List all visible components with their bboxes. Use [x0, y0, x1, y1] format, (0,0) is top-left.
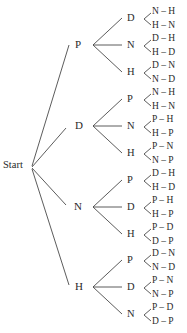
level2-node: H — [127, 148, 135, 159]
level2-node: H — [127, 67, 135, 78]
leaf-outcome: H – P — [152, 210, 174, 220]
level2-node: P — [127, 255, 133, 266]
leaf-outcome: N – H — [152, 88, 175, 98]
leaf-outcome: D – H — [152, 34, 175, 44]
leaf-outcome: P – D — [152, 223, 173, 233]
leaf-outcome: H – N — [152, 102, 175, 112]
level2-node: H — [127, 229, 135, 240]
leaf-outcome: P – H — [152, 196, 173, 206]
tree-diagram: Start P D N – H H – N N D – H H – D H D … — [0, 0, 187, 333]
level2-node: D — [127, 282, 135, 293]
leaf-outcome: D – P — [152, 237, 174, 247]
leaf-outcome: D – P — [152, 317, 174, 327]
level2-node: P — [127, 94, 133, 105]
root-label-start: Start — [3, 160, 23, 171]
leaf-outcome: P – N — [152, 276, 173, 286]
leaf-outcome: N – D — [152, 75, 175, 85]
leaf-outcome: D – N — [152, 61, 175, 71]
leaf-outcome: H – N — [152, 21, 175, 31]
level2-node: P — [127, 175, 133, 186]
level1-node: N — [74, 201, 82, 212]
level1-node: H — [75, 281, 83, 292]
leaf-outcome: P – H — [152, 115, 173, 125]
leaf-outcome: D – N — [152, 249, 175, 259]
leaf-outcome: D – H — [152, 169, 175, 179]
leaf-outcome: N – P — [152, 290, 174, 300]
leaf-outcome: N – D — [152, 263, 175, 273]
level2-node: N — [127, 309, 135, 320]
level2-node: D — [127, 202, 135, 213]
leaf-outcome: H – P — [152, 129, 174, 139]
leaf-outcome: H – D — [152, 183, 175, 193]
level2-node: N — [127, 40, 135, 51]
leaf-outcome: N – H — [152, 7, 175, 17]
level2-node: N — [127, 121, 135, 132]
level2-node: D — [127, 13, 135, 24]
level1-node: D — [75, 120, 83, 131]
leaf-outcome: P – D — [152, 303, 173, 313]
level1-node: P — [75, 39, 81, 50]
leaf-outcome: N – P — [152, 156, 174, 166]
leaf-outcome: H – D — [152, 48, 175, 58]
leaf-outcome: P – N — [152, 142, 173, 152]
